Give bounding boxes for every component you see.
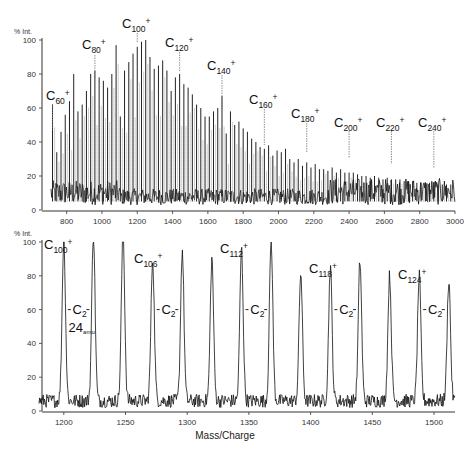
spacing-note: 24amu: [69, 320, 95, 335]
x-tick-label: 2800: [411, 217, 429, 226]
x-tick-label: 2600: [375, 217, 393, 226]
c2-spacing-label: C2: [73, 302, 87, 319]
peak-label-140: C140+: [207, 58, 236, 76]
top-spectrum-plot: 020406080100% Int.8001000120014001600180…: [14, 16, 464, 226]
peak-label-120: C120+: [165, 35, 194, 53]
x-tick-label: 800: [60, 217, 74, 226]
x-tick-label: 1200: [55, 418, 73, 427]
c2-spacing-label: C2: [428, 302, 442, 319]
peak-label-100: C100+: [44, 237, 73, 255]
x-tick-label: 1600: [199, 217, 217, 226]
y-tick-label: 40: [27, 138, 36, 147]
x-tick-label: 1400: [302, 418, 320, 427]
y-tick-label: 100: [23, 36, 37, 45]
bottom-spectrum-plot: 020406080100% Int.1200125013001350140014…: [14, 230, 455, 441]
mass-spectrum-figure: 020406080100% Int.8001000120014001600180…: [0, 0, 476, 452]
y-axis-label: % Int.: [14, 28, 32, 35]
x-tick-label: 1450: [363, 418, 381, 427]
x-tick-label: 3000: [446, 217, 464, 226]
x-tick-label: 1300: [178, 418, 196, 427]
y-tick-label: 0: [32, 407, 37, 416]
peak-label-200: C200+: [334, 115, 363, 133]
y-axis-label: % Int.: [14, 230, 32, 237]
y-tick-label: 80: [27, 272, 36, 281]
x-tick-label: 1200: [128, 217, 146, 226]
c2-spacing-label: C2: [250, 302, 264, 319]
x-tick-label: 1000: [93, 217, 111, 226]
peak-label-240: C240+: [418, 115, 447, 133]
y-tick-label: 20: [27, 172, 36, 181]
peak-label-118: C118+: [309, 261, 337, 279]
y-tick-label: 40: [27, 339, 36, 348]
y-tick-label: 60: [27, 306, 36, 315]
peak-label-100: C100+: [122, 16, 151, 34]
x-tick-label: 1500: [425, 418, 443, 427]
x-tick-label: 1800: [234, 217, 252, 226]
peak-label-106: C106+: [134, 251, 163, 269]
x-tick-label: 1350: [240, 418, 258, 427]
x-tick-label: 2200: [305, 217, 323, 226]
peak-label-60: C60+: [46, 88, 70, 106]
y-tick-label: 100: [23, 238, 37, 247]
x-tick-label: 2400: [340, 217, 358, 226]
y-tick-label: 60: [27, 104, 36, 113]
peak-label-180: C180+: [291, 106, 320, 124]
y-tick-label: 0: [32, 206, 37, 215]
x-tick-label: 1400: [164, 217, 182, 226]
peak-label-220: C220+: [376, 115, 405, 133]
c2-spacing-label: C2: [339, 302, 353, 319]
peak-label-124: C124+: [398, 267, 427, 285]
x-tick-label: 1250: [117, 418, 135, 427]
peak-label-112: C112+: [220, 241, 248, 259]
peak-label-160: C160+: [249, 92, 278, 110]
x-axis-title: Mass/Charge: [195, 430, 255, 441]
x-tick-label: 2000: [270, 217, 288, 226]
y-tick-label: 20: [27, 373, 36, 382]
spectrum-trace: [39, 242, 455, 408]
c2-spacing-label: C2: [161, 302, 175, 319]
peak-label-80: C80+: [82, 37, 106, 55]
y-tick-label: 80: [27, 70, 36, 79]
